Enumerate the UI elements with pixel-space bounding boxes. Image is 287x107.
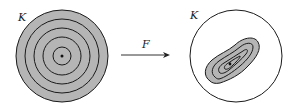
right-disk — [190, 10, 282, 102]
left-label: K — [17, 11, 27, 24]
arrow-label: F — [141, 38, 150, 51]
right-center-point — [229, 63, 232, 66]
left-center-point — [61, 55, 64, 58]
left-disk — [16, 10, 108, 102]
right-label: K — [189, 9, 199, 22]
map-arrow — [121, 52, 170, 58]
diagram: K F K — [0, 0, 287, 107]
